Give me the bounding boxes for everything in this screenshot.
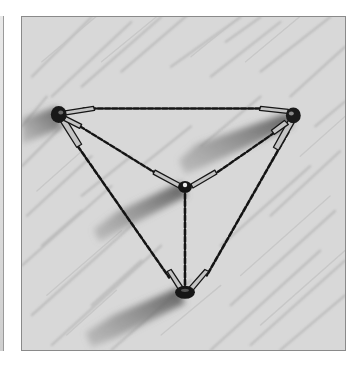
node-top-left	[51, 106, 67, 123]
node-center	[178, 181, 192, 193]
node-top-right	[286, 107, 301, 123]
tetrahedron-sketch	[22, 17, 345, 350]
node-bottom	[175, 286, 195, 299]
illustration-stage: Pencil illustration of four nodes connec…	[0, 0, 363, 368]
illustration-frame: Pencil illustration of four nodes connec…	[21, 16, 346, 351]
adjacent-panel-edge	[0, 16, 4, 351]
